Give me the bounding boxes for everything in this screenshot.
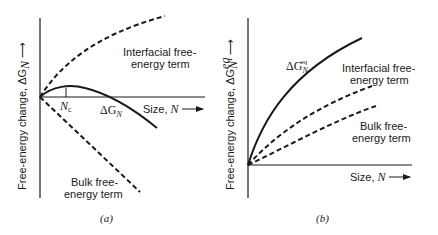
panel-b-interfacial-label-2: energy term bbox=[350, 74, 409, 86]
panel-a: Free-energy change, ΔGN ⟶ Size, N Interf… bbox=[16, 16, 205, 225]
diagram-canvas: Free-energy change, ΔGN ⟶ Size, N Interf… bbox=[0, 0, 438, 235]
panel-b-x-axis-label: Size, N bbox=[350, 170, 387, 184]
panel-a-bulk-label-2: energy term bbox=[64, 188, 123, 200]
panel-a-interfacial-label-2: energy term bbox=[131, 58, 190, 70]
panel-b-y-axis-label: Free-energy change, ΔGNeq ⟶ bbox=[218, 39, 240, 190]
panel-b-interfacial-curve bbox=[248, 86, 372, 165]
panel-a-caption: (a) bbox=[100, 212, 113, 225]
panel-b-bulk-label-1: Bulk free- bbox=[360, 120, 407, 132]
panel-a-interfacial-label-1: Interfacial free- bbox=[123, 46, 197, 58]
panel-a-curve-label: ΔGN bbox=[100, 103, 122, 119]
panel-a-critical-size-label: Nc bbox=[59, 99, 72, 114]
panel-b-curve-label: ΔGNeq bbox=[286, 58, 308, 75]
panel-b-interfacial-label-1: Interfacial free- bbox=[342, 62, 416, 74]
panel-a-x-axis-label: Size, N bbox=[143, 102, 180, 116]
panel-a-bulk-label-1: Bulk free- bbox=[71, 176, 118, 188]
panel-b: Free-energy change, ΔGNeq ⟶ Size, N ΔGNe… bbox=[218, 18, 416, 225]
panel-b-bulk-label-2: energy term bbox=[352, 132, 411, 144]
panel-a-y-axis-label: Free-energy change, ΔGN ⟶ bbox=[16, 42, 32, 190]
panel-b-caption: (b) bbox=[316, 212, 329, 225]
panel-a-total-curve bbox=[40, 86, 157, 128]
